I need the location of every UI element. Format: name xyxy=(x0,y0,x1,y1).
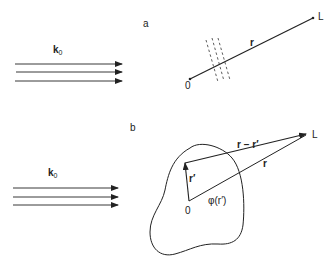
panel-b-label: b xyxy=(130,122,136,133)
vector-r-label-a: r xyxy=(250,37,254,48)
panel-a-label: a xyxy=(143,18,149,29)
potential-label: φ(r′) xyxy=(208,195,226,206)
incident-beam-arrows-b xyxy=(13,188,118,205)
scattering-diagram: a k0 0 L r b k0 0 L r′ xyxy=(0,0,331,266)
wavevector-k0-label-a: k0 xyxy=(53,44,63,56)
endpoint-L-a xyxy=(312,17,315,20)
panel-b: b k0 0 L r′ r − r′ r φ(r′) xyxy=(13,122,318,255)
incident-beam-arrows-a xyxy=(15,64,122,81)
origin-label-b: 0 xyxy=(185,205,191,216)
wavevector-k0-label-b: k0 xyxy=(48,167,58,179)
wavefront-dashes xyxy=(206,38,230,82)
endpoint-label-b: L xyxy=(312,129,318,140)
vector-r-prime-label: r′ xyxy=(189,173,196,184)
scatterer-blob xyxy=(150,144,244,255)
vector-diff-label: r − r′ xyxy=(237,139,259,150)
panel-a: a k0 0 L r xyxy=(15,11,324,91)
vector-r-label-b: r xyxy=(263,158,267,169)
path-line-a xyxy=(190,18,313,79)
origin-label-a: 0 xyxy=(185,80,191,91)
endpoint-label-a: L xyxy=(318,11,324,22)
